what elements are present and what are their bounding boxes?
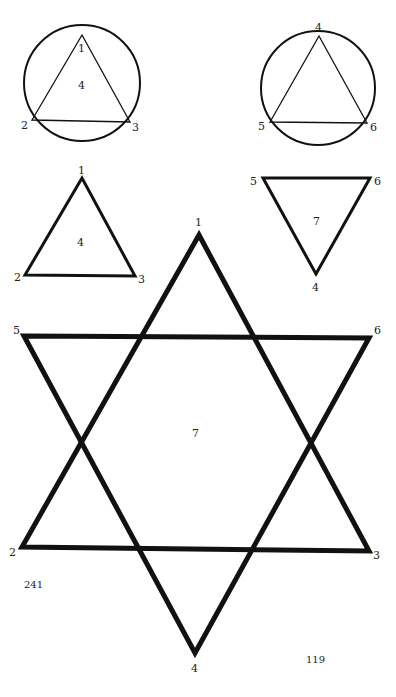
vertex-label-2: 2 bbox=[21, 119, 28, 132]
center-label: 4 bbox=[77, 236, 84, 249]
vertex-label-3: 3 bbox=[132, 121, 139, 134]
page-number-right: 119 bbox=[306, 654, 325, 665]
center-label: 7 bbox=[192, 427, 199, 440]
center-label: 7 bbox=[313, 215, 320, 228]
vertex-label-6: 6 bbox=[370, 121, 377, 134]
vertex-label-5: 5 bbox=[13, 324, 20, 337]
circle-left-figure: 1 2 3 4 bbox=[21, 25, 140, 141]
vertex-label-2: 2 bbox=[9, 546, 16, 559]
vertex-label-5: 5 bbox=[250, 175, 257, 188]
center-label: 4 bbox=[78, 79, 85, 92]
hexagram-figure: 1 2 3 5 6 4 7 bbox=[9, 216, 381, 675]
vertex-label-2: 2 bbox=[14, 271, 21, 284]
vertex-label-4: 4 bbox=[191, 662, 198, 675]
triangle-up-figure: 1 2 3 4 bbox=[14, 164, 145, 286]
vertex-label-1: 1 bbox=[195, 216, 202, 229]
diagram-canvas: 1 2 3 4 4 5 6 1 2 3 4 5 6 4 7 1 2 3 5 6 … bbox=[0, 0, 396, 697]
circle-right-figure: 4 5 6 bbox=[258, 21, 377, 145]
vertex-label-4: 4 bbox=[315, 21, 322, 34]
vertex-label-5: 5 bbox=[258, 120, 265, 133]
circle-right bbox=[261, 31, 375, 145]
triangle-up bbox=[25, 178, 135, 276]
page-number-left: 241 bbox=[24, 579, 43, 590]
vertex-label-3: 3 bbox=[138, 273, 145, 286]
vertex-label-6: 6 bbox=[374, 324, 381, 337]
vertex-label-1: 1 bbox=[78, 164, 85, 177]
vertex-label-1: 1 bbox=[78, 42, 85, 55]
hexagram-down-triangle bbox=[24, 336, 369, 653]
inscribed-triangle-right bbox=[270, 36, 367, 123]
vertex-label-4: 4 bbox=[312, 281, 319, 294]
vertex-label-6: 6 bbox=[374, 175, 381, 188]
triangle-down-figure: 5 6 4 7 bbox=[250, 175, 381, 294]
vertex-label-3: 3 bbox=[373, 549, 380, 562]
